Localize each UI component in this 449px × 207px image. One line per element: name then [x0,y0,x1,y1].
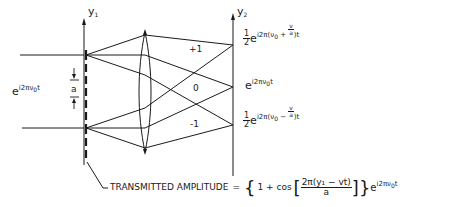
lens-bottom-icon [143,149,147,155]
diagram-canvas: y1 y2 a ei2πν0t +1 0 -1 12ei2π(ν0 + va)t… [0,0,449,207]
input-wave-label: ei2πν0t [12,86,40,97]
order-0-expression: ei2πν0t [245,80,273,91]
order-label-plus1: +1 [189,45,202,54]
y2-arrow-icon [231,13,235,20]
ray [86,128,145,148]
y2-label: y2 [237,6,247,17]
optical-layout [0,0,449,207]
ray [145,87,233,128]
ray [86,108,145,128]
caption-carrier: ei2πν0t [370,183,397,193]
order-plus1-expression: 12ei2π(ν0 + va)t [243,30,299,47]
y1-label: y1 [88,6,98,17]
caption-leader [87,162,108,188]
y1-arrow-icon [82,18,86,25]
ray [145,125,233,148]
caption-label: TRANSMITTED AMPLITUDE [110,183,228,192]
transmitted-amplitude-caption: TRANSMITTED AMPLITUDE = { 1 + cos [ 2π(y… [110,178,398,197]
ray [86,55,145,75]
order-label-0: 0 [193,84,199,93]
period-label: a [71,85,77,94]
order-minus1-expression: 12ei2π(ν0 − va)t [243,112,299,129]
ray [145,45,233,108]
ray [86,35,145,55]
lens-top-icon [143,29,147,35]
order-label-minus1: -1 [190,120,199,129]
lens [139,32,151,152]
